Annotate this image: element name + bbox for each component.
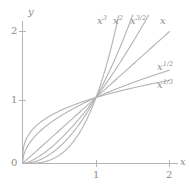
curve-label-x-cubed: x3 bbox=[97, 16, 107, 26]
y-axis-label: y bbox=[28, 7, 34, 17]
curve-x-1-2 bbox=[23, 70, 170, 163]
y-tick-label-1: 1 bbox=[11, 95, 17, 105]
curve-label-x: x bbox=[160, 16, 166, 26]
power-functions-figure: x3 x2 x3/2 x x1/2 x1/3 y x 0 1 2 1 2 bbox=[0, 0, 189, 186]
curve-label-x-three-halves: x3/2 bbox=[130, 16, 146, 26]
curve-label-x-one-third: x1/3 bbox=[157, 80, 173, 90]
plot-canvas bbox=[0, 0, 189, 186]
curve-x-1-3 bbox=[23, 80, 170, 163]
y-tick-label-2: 2 bbox=[11, 26, 17, 36]
curve-group bbox=[23, 15, 170, 164]
curve-label-x-squared: x2 bbox=[113, 16, 123, 26]
x-axis-label: x bbox=[180, 157, 186, 167]
origin-tick-label: 0 bbox=[11, 158, 17, 168]
curve-x-3-2 bbox=[23, 15, 149, 163]
x-tick-label-2: 2 bbox=[166, 170, 172, 180]
curve-label-x-one-half: x1/2 bbox=[157, 62, 173, 72]
x-tick-label-1: 1 bbox=[93, 170, 99, 180]
